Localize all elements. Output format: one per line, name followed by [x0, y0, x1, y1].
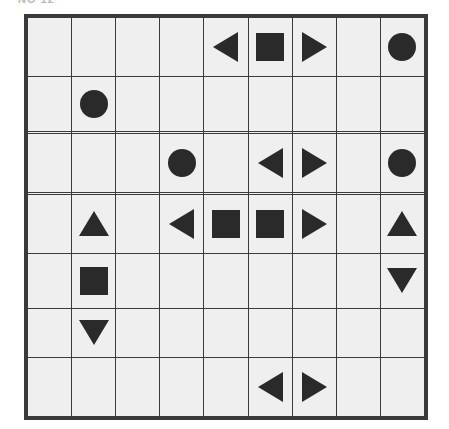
grid-cell-r6-c8[interactable]: [336, 194, 380, 253]
cell-content: [293, 195, 336, 253]
grid-cell-r1-c9[interactable]: [380, 18, 424, 77]
cell-content: [72, 254, 115, 308]
grid-cell-r8-c3[interactable]: [116, 308, 160, 357]
cell-content: [293, 18, 336, 76]
grid-cell-r8-c2[interactable]: [72, 308, 116, 357]
grid-cell-r4-c9[interactable]: [380, 133, 424, 192]
square-icon: [256, 210, 284, 238]
grid-cell-r8-c9[interactable]: [380, 308, 424, 357]
grid-cell-r2-c8[interactable]: [336, 76, 380, 131]
triangle-left-icon: [213, 32, 238, 62]
grid-cell-r4-c4[interactable]: [160, 133, 204, 192]
grid-cell-r1-c4[interactable]: [160, 18, 204, 77]
grid-cell-r8-c7[interactable]: [292, 308, 336, 357]
cell-content: [72, 358, 115, 416]
triangle-right-icon: [302, 148, 327, 178]
grid-cell-r9-c2[interactable]: [72, 358, 116, 417]
cell-content: [72, 77, 115, 131]
grid-cell-r4-c1[interactable]: [28, 133, 72, 192]
cell-content: [381, 195, 424, 253]
grid-cell-r1-c5[interactable]: [204, 18, 248, 77]
grid-cell-r4-c8[interactable]: [336, 133, 380, 192]
grid-cell-r7-c8[interactable]: [336, 253, 380, 308]
cell-content: [249, 309, 292, 357]
grid-cell-r7-c9[interactable]: [380, 253, 424, 308]
grid-cell-r7-c3[interactable]: [116, 253, 160, 308]
cell-content: [204, 77, 247, 131]
grid-cell-r6-c9[interactable]: [380, 194, 424, 253]
grid-cell-r7-c7[interactable]: [292, 253, 336, 308]
triangle-down-icon: [387, 268, 417, 293]
grid-row: [28, 358, 425, 417]
grid-cell-r4-c5[interactable]: [204, 133, 248, 192]
grid-cell-r1-c7[interactable]: [292, 18, 336, 77]
cell-content: [337, 254, 380, 308]
grid-cell-r8-c4[interactable]: [160, 308, 204, 357]
grid-cell-r2-c5[interactable]: [204, 76, 248, 131]
grid-cell-r6-c3[interactable]: [116, 194, 160, 253]
grid-cell-r6-c2[interactable]: [72, 194, 116, 253]
grid-cell-r6-c1[interactable]: [28, 194, 72, 253]
grid-cell-r4-c7[interactable]: [292, 133, 336, 192]
cell-content: [337, 309, 380, 357]
grid-cell-r1-c2[interactable]: [72, 18, 116, 77]
cell-content: [116, 77, 159, 131]
cell-content: [337, 77, 380, 131]
grid-cell-r9-c9[interactable]: [380, 358, 424, 417]
grid-row: [28, 133, 425, 192]
grid-cell-r6-c7[interactable]: [292, 194, 336, 253]
cell-content: [337, 134, 380, 192]
grid-cell-r7-c2[interactable]: [72, 253, 116, 308]
grid-cell-r6-c5[interactable]: [204, 194, 248, 253]
grid-cell-r7-c6[interactable]: [248, 253, 292, 308]
grid-cell-r8-c5[interactable]: [204, 308, 248, 357]
grid-cell-r9-c8[interactable]: [336, 358, 380, 417]
grid-cell-r4-c3[interactable]: [116, 133, 160, 192]
grid-cell-r2-c1[interactable]: [28, 76, 72, 131]
cell-content: [381, 309, 424, 357]
triangle-right-icon: [302, 209, 327, 239]
cell-content: [160, 195, 203, 253]
grid-cell-r8-c8[interactable]: [336, 308, 380, 357]
grid-cell-r8-c1[interactable]: [28, 308, 72, 357]
caption-label: NO 12: [18, 0, 55, 5]
grid-cell-r9-c5[interactable]: [204, 358, 248, 417]
grid-cell-r6-c4[interactable]: [160, 194, 204, 253]
grid-row: [28, 253, 425, 308]
cell-content: [116, 18, 159, 76]
cell-content: [28, 309, 71, 357]
grid-cell-r2-c6[interactable]: [248, 76, 292, 131]
shape-grid-panel: [24, 14, 428, 420]
grid-cell-r2-c7[interactable]: [292, 76, 336, 131]
cell-content: [72, 134, 115, 192]
grid-cell-r9-c1[interactable]: [28, 358, 72, 417]
grid-cell-r1-c1[interactable]: [28, 18, 72, 77]
cell-content: [160, 18, 203, 76]
grid-cell-r6-c6[interactable]: [248, 194, 292, 253]
grid-cell-r1-c6[interactable]: [248, 18, 292, 77]
grid-cell-r2-c3[interactable]: [116, 76, 160, 131]
cell-content: [249, 77, 292, 131]
cell-content: [204, 309, 247, 357]
grid-cell-r2-c9[interactable]: [380, 76, 424, 131]
grid-cell-r2-c4[interactable]: [160, 76, 204, 131]
cell-content: [204, 195, 247, 253]
grid-cell-r2-c2[interactable]: [72, 76, 116, 131]
grid-cell-r4-c2[interactable]: [72, 133, 116, 192]
grid-cell-r7-c4[interactable]: [160, 253, 204, 308]
grid-cell-r1-c3[interactable]: [116, 18, 160, 77]
grid-cell-r9-c7[interactable]: [292, 358, 336, 417]
triangle-left-icon: [258, 372, 283, 402]
grid-cell-r8-c6[interactable]: [248, 308, 292, 357]
grid-cell-r9-c3[interactable]: [116, 358, 160, 417]
cell-content: [293, 254, 336, 308]
cell-content: [381, 18, 424, 76]
grid-cell-r9-c4[interactable]: [160, 358, 204, 417]
cell-content: [337, 195, 380, 253]
grid-cell-r9-c6[interactable]: [248, 358, 292, 417]
grid-cell-r4-c6[interactable]: [248, 133, 292, 192]
grid-cell-r1-c8[interactable]: [336, 18, 380, 77]
cell-content: [72, 195, 115, 253]
grid-cell-r7-c1[interactable]: [28, 253, 72, 308]
grid-cell-r7-c5[interactable]: [204, 253, 248, 308]
